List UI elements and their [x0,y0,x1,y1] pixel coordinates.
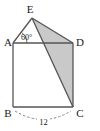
vertex-label-D: D [76,36,84,48]
dimension-label-12: 12 [39,117,48,127]
geometry-figure: E A D B C 60° 12 [0,0,100,131]
vertex-label-B: B [4,107,11,119]
angle-label-60: 60° [21,33,32,42]
vertex-label-E: E [27,3,34,15]
geometry-canvas: E A D B C 60° 12 [0,0,100,131]
vertex-label-A: A [4,36,12,48]
vertex-label-C: C [76,107,83,119]
